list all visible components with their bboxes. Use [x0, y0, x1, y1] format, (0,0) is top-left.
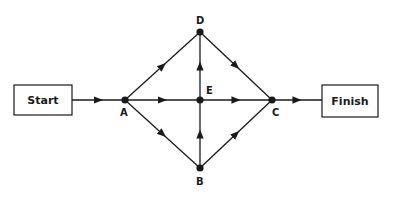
node-a	[121, 96, 128, 103]
finish-label: Finish	[331, 95, 368, 108]
network-diagram: Start Finish A B C D E	[0, 0, 394, 200]
edge-a-d	[125, 32, 200, 100]
node-c	[268, 96, 275, 103]
edge-a-b	[125, 100, 200, 168]
node-d	[196, 28, 203, 35]
start-label: Start	[27, 94, 58, 107]
node-b	[196, 164, 203, 171]
node-label-c: C	[272, 107, 279, 118]
node-label-a: A	[120, 107, 128, 118]
node-e	[196, 96, 203, 103]
node-label-b: B	[196, 176, 204, 187]
node-label-e: E	[206, 85, 213, 96]
edge-b-c	[200, 100, 272, 168]
node-label-d: D	[196, 15, 204, 26]
